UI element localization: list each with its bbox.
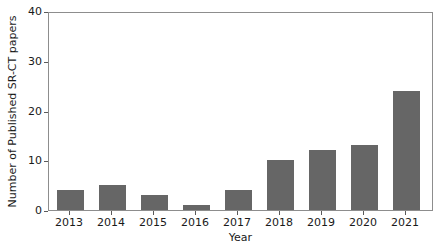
bar [99, 185, 126, 210]
x-tick-label: 2021 [375, 217, 435, 228]
x-tick-mark [111, 211, 112, 215]
bar [267, 160, 294, 210]
bar [183, 205, 210, 210]
x-tick-mark [195, 211, 196, 215]
x-tick-mark [237, 211, 238, 215]
bar [393, 91, 420, 210]
x-tick-mark [405, 211, 406, 215]
bar-chart-figure: 010203040 201320142015201620172018201920… [0, 0, 442, 250]
bar [225, 190, 252, 210]
x-tick-mark [363, 211, 364, 215]
bar [309, 150, 336, 210]
y-axis-label: Number of Published SR-CT papers [7, 12, 18, 212]
bar [351, 145, 378, 210]
x-tick-mark [279, 211, 280, 215]
x-tick-mark [69, 211, 70, 215]
y-tick-mark [44, 211, 48, 212]
x-axis-label: Year [48, 232, 433, 243]
bar [57, 190, 84, 210]
plot-area [48, 12, 433, 211]
bar [141, 195, 168, 210]
x-tick-mark [153, 211, 154, 215]
x-tick-mark [321, 211, 322, 215]
